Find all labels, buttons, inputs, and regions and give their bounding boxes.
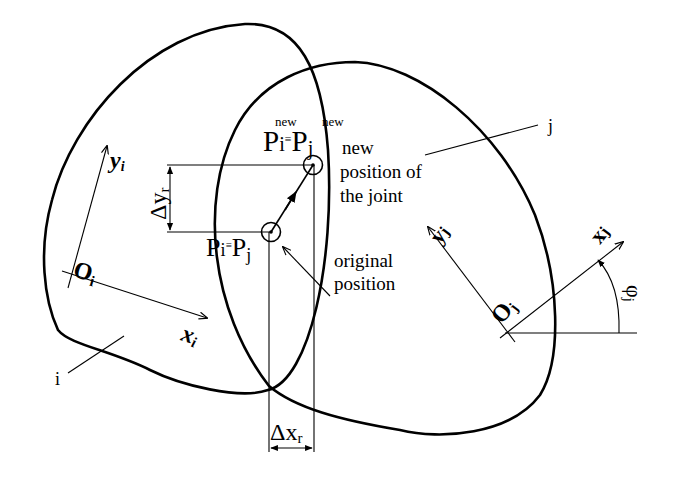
body-j-leader: [425, 125, 538, 155]
new-position-line-3: the joint: [340, 185, 404, 206]
phi-j-label: φj: [621, 285, 647, 302]
original-position-line-2: position: [334, 273, 396, 294]
body-i-label: i: [55, 369, 60, 389]
yj-label: yj: [424, 220, 454, 248]
delta-x-label: Δxr: [270, 419, 302, 446]
displacement-arrowhead: [285, 192, 296, 210]
original-position-line-1: original: [334, 250, 393, 271]
joint-new-label: Pi≡Pj: [263, 125, 313, 160]
body-j-outline: [215, 62, 555, 434]
origin-i-label: Oi: [70, 256, 100, 289]
xi-label: xi: [177, 320, 202, 351]
body-j-label: j: [547, 116, 553, 136]
joint-new-sup-j: new: [322, 114, 344, 129]
xj-label: xj: [584, 220, 614, 248]
yi-label: yi: [107, 147, 125, 174]
xj-axis: [500, 242, 623, 338]
joint-displacement-diagram: Oi xi yi i Oj xj yj φj j new new Pi≡Pj P…: [0, 0, 681, 482]
new-position-line-2: position of: [340, 161, 422, 182]
phi-angle-arc: [598, 260, 619, 333]
new-position-line-1: new: [342, 137, 374, 158]
delta-y-label: Δyr: [145, 188, 172, 220]
origin-j-label: Oj: [485, 293, 521, 328]
joint-original-label: Pi≡Pj: [206, 233, 251, 265]
